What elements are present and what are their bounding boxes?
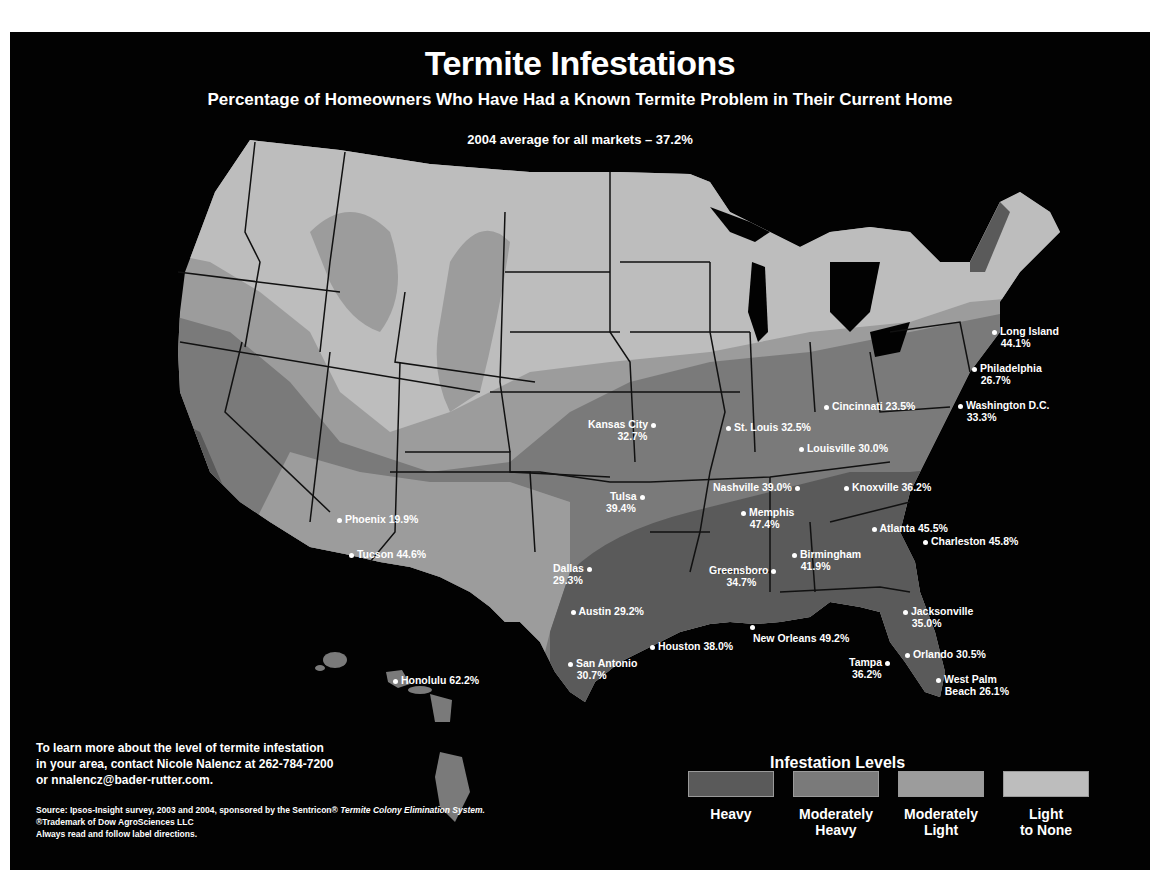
legend-label-heavy: Heavy — [681, 806, 781, 822]
city-tampa: Tampa 36.2% — [849, 656, 890, 680]
legend-label-moderately-light: ModeratelyLight — [891, 806, 991, 838]
contact-info: To learn more about the level of termite… — [36, 740, 333, 788]
city-dot-icon — [824, 405, 829, 410]
city-dot-icon — [571, 610, 576, 615]
city-long-island: Long Island 44.1% — [992, 325, 1059, 349]
city-philadelphia: Philadelphia 26.7% — [972, 362, 1042, 386]
source-product: Termite Colony Elimination System. — [340, 805, 485, 815]
city-washington-dc: Washington D.C. 33.3% — [958, 399, 1050, 423]
contact-line: To learn more about the level of termite… — [36, 740, 333, 756]
contact-email: or nnalencz@bader-rutter.com. — [36, 772, 333, 788]
city-dot-icon — [795, 486, 800, 491]
legend-label-moderately-heavy: ModeratelyHeavy — [786, 806, 886, 838]
city-greensboro: Greensboro 34.7% — [709, 564, 776, 588]
map-poster: Termite Infestations Percentage of Homeo… — [10, 32, 1150, 870]
city-dot-icon — [792, 553, 797, 558]
source-note: Source: Ipsos-Insight survey, 2003 and 2… — [36, 804, 485, 840]
city-dot-icon — [923, 540, 928, 545]
city-dot-icon — [903, 610, 908, 615]
city-houston: Houston 38.0% — [650, 640, 733, 652]
legend-swatch-heavy — [688, 771, 774, 797]
city-phoenix: Phoenix 19.9% — [337, 513, 418, 525]
city-new-orleans: New Orleans 49.2% — [750, 620, 849, 644]
city-west-palm-beach: West Palm Beach 26.1% — [936, 673, 1009, 697]
source-text: Source: Ipsos-Insight survey, 2003 and 2… — [36, 805, 338, 815]
city-louisville: Louisville 30.0% — [799, 442, 888, 454]
city-kansas-city: Kansas City 32.7% — [588, 418, 656, 442]
city-st-louis: St. Louis 32.5% — [726, 421, 811, 433]
city-birmingham: Birmingham 41.9% — [792, 548, 861, 572]
city-dot-icon — [337, 518, 342, 523]
city-dot-icon — [905, 653, 910, 658]
city-dallas: Dallas 29.3% — [553, 562, 592, 586]
city-dot-icon — [771, 569, 776, 574]
city-dot-icon — [651, 423, 656, 428]
city-austin: Austin 29.2% — [571, 605, 644, 617]
legend-label-light-to-none: Lightto None — [996, 806, 1096, 838]
city-nashville: Nashville 39.0% — [713, 481, 800, 493]
city-orlando: Orlando 30.5% — [905, 648, 986, 660]
city-tulsa: Tulsa 39.4% — [606, 490, 645, 514]
legend-swatch-light-to-none — [1003, 771, 1089, 797]
legend-swatch-moderately-heavy — [793, 771, 879, 797]
city-atlanta: Atlanta 45.5% — [872, 522, 948, 534]
city-tucson: Tucson 44.6% — [349, 548, 426, 560]
city-dot-icon — [972, 367, 977, 372]
city-dot-icon — [750, 625, 755, 630]
city-san-antonio: San Antonio 30.7% — [568, 657, 637, 681]
city-jacksonville: Jacksonville 35.0% — [903, 605, 973, 629]
city-dot-icon — [872, 527, 877, 532]
city-dot-icon — [650, 645, 655, 650]
city-cincinnati: Cincinnati 23.5% — [824, 400, 915, 412]
city-dot-icon — [349, 553, 354, 558]
city-dot-icon — [587, 567, 592, 572]
city-dot-icon — [992, 330, 997, 335]
city-dot-icon — [799, 447, 804, 452]
city-dot-icon — [568, 662, 573, 667]
city-honolulu: Honolulu 62.2% — [393, 674, 479, 686]
legend-title: Infestation Levels — [770, 754, 905, 772]
city-dot-icon — [936, 678, 941, 683]
city-dot-icon — [640, 495, 645, 500]
legend-swatch-moderately-light — [898, 771, 984, 797]
trademark-note: ®Trademark of Dow AgroSciences LLC — [36, 816, 485, 828]
city-dot-icon — [958, 404, 963, 409]
city-memphis: Memphis 47.4% — [741, 506, 794, 530]
city-dot-icon — [726, 426, 731, 431]
directions-note: Always read and follow label directions. — [36, 828, 485, 840]
city-dot-icon — [393, 679, 398, 684]
city-knoxville: Knoxville 36.2% — [844, 481, 931, 493]
city-charleston: Charleston 45.8% — [923, 535, 1018, 547]
city-dot-icon — [844, 486, 849, 491]
city-dot-icon — [741, 511, 746, 516]
contact-line: in your area, contact Nicole Nalencz at … — [36, 756, 333, 772]
city-dot-icon — [885, 661, 890, 666]
